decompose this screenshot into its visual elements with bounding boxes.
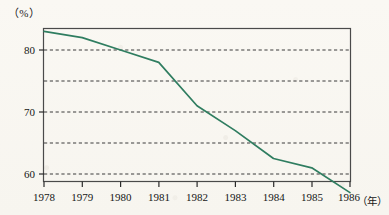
x-tick-label-1984: 1984 [263, 191, 286, 203]
gridlines [44, 50, 350, 174]
y-tick-label-60: 60 [24, 168, 36, 180]
x-tick-label-1982: 1982 [186, 191, 208, 203]
x-tick-label-1979: 1979 [71, 191, 94, 203]
x-tick-marks [44, 182, 350, 188]
chart-page: （%） 80 70 60 [0, 0, 389, 215]
x-tick-label-1980: 1980 [110, 191, 133, 203]
x-tick-label-1983: 1983 [224, 191, 247, 203]
line-chart: 80 70 60 1978 1979 1980 1981 1982 1983 1… [0, 0, 389, 215]
y-tick-label-70: 70 [24, 106, 36, 118]
y-tick-label-80: 80 [24, 44, 36, 56]
x-axis-unit-label: （年） [357, 193, 387, 208]
x-tick-label-1981: 1981 [148, 191, 170, 203]
x-tick-label-1985: 1985 [301, 191, 324, 203]
x-tick-label-1978: 1978 [33, 191, 56, 203]
